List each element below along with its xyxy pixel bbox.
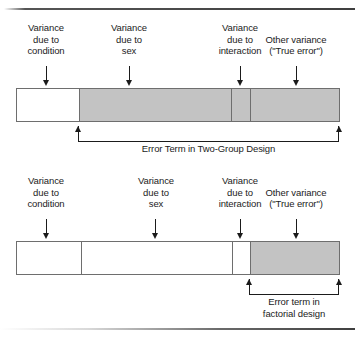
label-variance-due-to-condition-bottom: Variance due to condition xyxy=(6,175,86,210)
label-line: due to xyxy=(6,187,86,199)
label-variance-due-to-sex-top: Variance due to sex xyxy=(89,22,169,57)
caption-line: Error term in xyxy=(240,296,348,308)
pointer-arrow-interaction-top xyxy=(237,66,244,86)
pointer-arrow-interaction-bottom xyxy=(237,219,244,239)
label-line: Other variance xyxy=(259,187,333,199)
label-line: sex xyxy=(116,198,196,210)
bar-segment-interaction-bottom xyxy=(232,242,250,274)
label-variance-due-to-sex-bottom: Variance due to sex xyxy=(116,175,196,210)
top-divider-rule xyxy=(4,8,355,10)
variance-bar-two-group xyxy=(16,88,340,122)
label-line: due to xyxy=(116,187,196,199)
bar-segment-other-bottom xyxy=(250,242,339,274)
pointer-arrow-condition-top xyxy=(43,66,50,86)
variance-partition-figure: Variance due to condition Variance due t… xyxy=(0,0,355,339)
label-other-variance-top: Other variance ("True error") xyxy=(259,34,333,57)
label-line: Variance xyxy=(6,175,86,187)
pointer-arrow-other-variance-bottom xyxy=(293,219,300,239)
caption-line: factorial design xyxy=(240,308,348,320)
label-other-variance-bottom: Other variance ("True error") xyxy=(259,187,333,210)
label-line: Variance xyxy=(89,22,169,34)
caption-error-term-factorial: Error term in factorial design xyxy=(240,296,348,319)
label-variance-due-to-condition-top: Variance due to condition xyxy=(6,22,86,57)
label-line: condition xyxy=(6,198,86,210)
bottom-divider-rule xyxy=(0,328,355,330)
bar-segment-sex-bottom xyxy=(81,242,232,274)
label-line: due to xyxy=(6,34,86,46)
pointer-arrow-sex-top xyxy=(126,66,133,86)
label-line: Variance xyxy=(204,22,276,34)
label-line: Variance xyxy=(116,175,196,187)
bar-segment-condition-bottom xyxy=(17,242,81,274)
bracket-error-term-factorial xyxy=(249,279,339,295)
label-line: Variance xyxy=(6,22,86,34)
pointer-arrow-condition-bottom xyxy=(43,219,50,239)
label-line: ("True error") xyxy=(259,45,333,57)
caption-line: Error Term in Two-Group Design xyxy=(78,143,339,155)
bar-segment-condition-top xyxy=(17,89,79,121)
bar-segment-interaction-top xyxy=(231,89,250,121)
label-line: Other variance xyxy=(259,34,333,46)
label-line: due to xyxy=(89,34,169,46)
label-line: ("True error") xyxy=(259,198,333,210)
label-line: Variance xyxy=(204,175,276,187)
bar-segment-other-top xyxy=(250,89,339,121)
pointer-arrow-sex-bottom xyxy=(152,219,159,239)
variance-bar-factorial xyxy=(16,241,340,275)
bracket-error-term-two-group xyxy=(78,126,339,142)
pointer-arrow-other-variance-top xyxy=(293,66,300,86)
label-line: condition xyxy=(6,45,86,57)
caption-error-term-two-group: Error Term in Two-Group Design xyxy=(78,143,339,155)
bar-segment-sex-top xyxy=(79,89,231,121)
label-line: sex xyxy=(89,45,169,57)
